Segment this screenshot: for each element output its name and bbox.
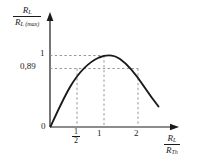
y-axis [47,12,54,127]
x-axis-label-numerator: RL [164,134,180,144]
x-tick-label-2: 2 [134,129,139,138]
chart-figure: RL RL (max) RL RTh 1 0,89 0 1 2 1 2 [0,0,203,168]
x-tick-label-origin: 0 [41,122,46,131]
x-tick-half-denominator: 2 [72,136,80,145]
y-tick-label-089: 0,89 [20,62,36,71]
x-axis-label: RL RTh [164,134,180,156]
y-axis-label-numerator: RL [13,6,41,16]
x-tick-label-1: 1 [97,129,102,138]
y-tick-label-1: 1 [40,49,45,58]
gridline-dashed-group [50,56,138,128]
x-axis [50,124,179,131]
x-tick-half-numerator: 1 [72,128,80,136]
y-axis-label-denominator: RL (max) [13,16,41,27]
x-axis-label-denominator: RTh [164,144,180,155]
power-curve [51,55,159,126]
x-tick-label-half: 1 2 [72,128,80,145]
y-axis-label: RL RL (max) [13,6,41,28]
